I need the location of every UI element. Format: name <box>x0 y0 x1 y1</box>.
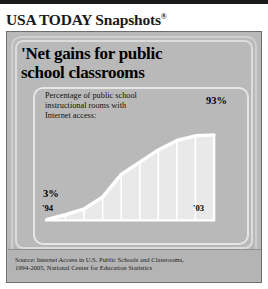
subtitle-line-1: Percentage of public school <box>45 91 195 101</box>
headline: 'Net gains for public school classrooms <box>21 44 249 82</box>
masthead-brand: USA TODAY Snapshots <box>6 11 161 28</box>
top-rule <box>0 0 268 4</box>
axis-label-start-year: '94 <box>42 203 53 213</box>
source-line-2: 1994-2005, National Center for Education… <box>15 264 255 272</box>
subtitle-line-3: Internet access: <box>45 111 195 121</box>
snapshot-graphic: 'Net gains for public school classrooms … <box>6 31 262 283</box>
axis-label-end-year: '03 <box>193 203 204 213</box>
headline-line-1: 'Net gains for public <box>21 44 249 63</box>
subtitle-line-2: instructional rooms with <box>45 101 195 111</box>
source-note: Source: Internet Access in U.S. Public S… <box>15 256 255 273</box>
headline-line-2: school classrooms <box>21 63 249 82</box>
value-label-start: 3% <box>43 188 59 199</box>
source-band: Source: Internet Access in U.S. Public S… <box>8 249 262 281</box>
source-line-1: Source: Internet Access in U.S. Public S… <box>15 256 255 264</box>
registered-mark-icon: ® <box>161 12 167 21</box>
masthead-title: USA TODAY Snapshots® <box>6 7 262 29</box>
value-label-end: 93% <box>206 95 227 106</box>
chart-subtitle: Percentage of public school instructiona… <box>45 91 195 122</box>
area-chart-plot <box>43 128 233 222</box>
area-fill <box>47 135 214 221</box>
